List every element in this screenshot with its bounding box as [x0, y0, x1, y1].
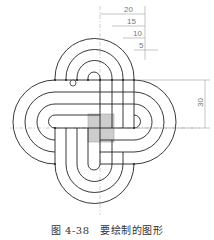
- dim-30: 30: [196, 98, 205, 107]
- start-point-marker: [70, 80, 76, 86]
- dim-5: 5: [139, 41, 144, 50]
- top-dimensions: [100, 6, 158, 60]
- figure-caption: 图 4-38 要绘制的图形: [0, 222, 214, 237]
- centerlines: [10, 6, 200, 215]
- dim-20: 20: [124, 5, 133, 14]
- dim-10: 10: [133, 29, 142, 38]
- dim-15: 15: [127, 17, 136, 26]
- knot-drawing: 20 15 10 5 30: [0, 0, 214, 222]
